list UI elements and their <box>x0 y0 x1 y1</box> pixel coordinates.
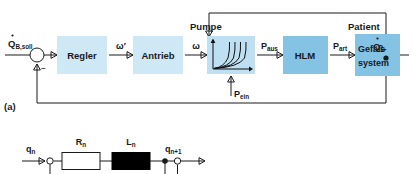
terminal-q-in-label: qn <box>26 144 36 155</box>
circuit-element-inductor-label: Ln <box>126 137 136 148</box>
block-pumpe[interactable] <box>207 36 255 74</box>
circuit-input-lead <box>22 158 45 165</box>
circuit-element-resistor-label: Rn <box>76 137 87 148</box>
wire-hlm-to-gefaess <box>330 52 355 59</box>
circuit-element-inductor[interactable] <box>112 153 150 170</box>
summing-junction-sign: – <box>41 63 46 72</box>
svg-text:QB,soll: QB,soll <box>8 38 33 51</box>
diagram-canvas: – Regler ω′ Antrieb ω Pumpe <box>0 0 413 174</box>
output-junction-dot <box>383 55 388 60</box>
circuit-element-resistor[interactable] <box>62 153 100 170</box>
block-antrieb-label: Antrieb <box>141 50 174 61</box>
block-regler-label: Regler <box>67 50 97 61</box>
wire-sum-to-regler <box>44 52 57 59</box>
circuit-terminal-right[interactable] <box>174 158 180 164</box>
signal-p-art-label: Part <box>333 41 348 52</box>
signal-omega-prime-label: ω′ <box>116 41 126 51</box>
wire-antrieb-to-pumpe <box>185 52 207 59</box>
group-label-patient: Patient <box>348 21 381 32</box>
group-label-pumpe: Pumpe <box>190 21 222 32</box>
signal-p-ein-label: Pein <box>234 89 249 100</box>
panel-a-label: (a) <box>4 101 16 112</box>
signal-input-label: QB,soll <box>8 34 33 51</box>
block-hlm-label: HLM <box>295 50 316 61</box>
wire-regler-to-antrieb <box>109 52 133 59</box>
signal-p-aus-label: Paus <box>261 41 278 52</box>
signal-omega-label: ω <box>192 41 200 51</box>
wire-pumpe-to-hlm <box>257 52 283 59</box>
circuit-output-lead <box>181 158 205 165</box>
figure-root: – Regler ω′ Antrieb ω Pumpe <box>0 0 413 174</box>
terminal-q-out-label: qn+1 <box>165 144 182 155</box>
circuit-terminal-left[interactable] <box>47 158 53 164</box>
